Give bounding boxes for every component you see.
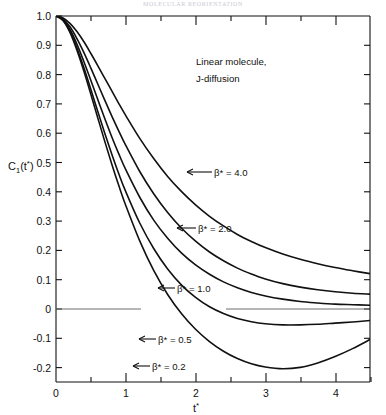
x-axis-ticks-bottom	[91, 373, 371, 382]
x-tick-label: 1	[123, 387, 129, 399]
y-axis-title-c: C	[8, 160, 16, 172]
x-axis-tick-labels: 0 1 2 3 4	[53, 387, 339, 399]
y-axis-ticks-right	[364, 45, 370, 367]
y-axis-title: C1(t*)	[8, 159, 34, 175]
y-tick-label: 0.1	[36, 274, 51, 286]
x-tick-label: 3	[263, 387, 269, 399]
y-tick-label: 0.6	[36, 127, 51, 139]
annotation-line-2: J-diffusion	[196, 73, 240, 84]
y-tick-label: 0.3	[36, 215, 51, 227]
y-tick-label: 0.8	[36, 69, 51, 81]
y-tick-label: 0.4	[36, 186, 51, 198]
curve-label-beta-2: β* = 2.0	[198, 223, 232, 234]
annotation-line-1: Linear molecule,	[196, 56, 266, 67]
curve-beta-4-0	[56, 16, 370, 274]
curve-beta-0-2	[56, 16, 370, 369]
curve-label-beta-1: β* = 1.0	[177, 283, 211, 294]
y-tick-label: 0.2	[36, 244, 51, 256]
data-curves	[56, 16, 370, 369]
x-axis-ticks-top	[91, 16, 336, 25]
y-tick-label: 0.9	[36, 39, 51, 51]
y-tick-label: 0.5	[36, 157, 51, 169]
curve-label-beta-4: β* = 4.0	[214, 167, 248, 178]
y-axis-title-close: )	[30, 160, 34, 172]
curve-label-beta-05: β* = 0.5	[158, 334, 192, 345]
y-tick-label: 0	[45, 303, 51, 315]
svg-text:C1(t*): C1(t*)	[8, 159, 34, 175]
y-tick-label: -0.2	[33, 362, 51, 374]
y-tick-label: 1.0	[36, 10, 51, 22]
plot-annotation: Linear molecule, J-diffusion	[196, 56, 266, 84]
x-tick-label: 0	[53, 387, 59, 399]
figure-container: MOLECULAR REORIENTATION	[0, 0, 386, 415]
svg-text:t*: t*	[193, 401, 199, 414]
y-axis-title-open: (t	[20, 160, 27, 172]
y-axis-ticks-left	[56, 16, 62, 368]
curve-label-beta-02: β* = 0.2	[152, 361, 186, 372]
y-tick-label: -0.1	[33, 332, 51, 344]
x-tick-label: 4	[333, 387, 339, 399]
x-tick-label: 2	[193, 387, 199, 399]
y-tick-label: 0.7	[36, 98, 51, 110]
x-axis-title-star: *	[196, 401, 199, 410]
y-axis-tick-labels: 1.0 0.9 0.8 0.7 0.6 0.5 0.4 0.3 0.2 0.1 …	[33, 10, 51, 374]
curve-label-texts: β* = 4.0 β* = 2.0 β* = 1.0 β* = 0.5 β* =…	[152, 167, 248, 372]
x-axis-title: t*	[193, 401, 199, 414]
plot-frame	[56, 16, 370, 382]
correlation-function-chart: 1.0 0.9 0.8 0.7 0.6 0.5 0.4 0.3 0.2 0.1 …	[0, 0, 386, 415]
